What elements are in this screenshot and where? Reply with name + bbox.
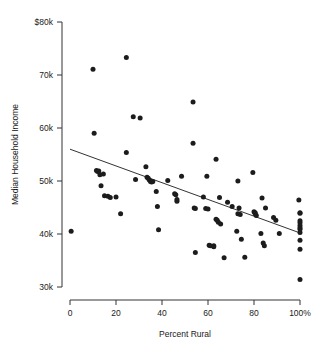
- data-point: [239, 237, 244, 242]
- x-tick-label: 20: [111, 308, 121, 318]
- y-tick-label: 50k: [39, 176, 53, 186]
- scatter-chart-figure: 30k40k50k60k70k$80k020406080100%Percent …: [0, 0, 318, 356]
- data-point: [99, 183, 104, 188]
- x-tick-label: 80: [249, 308, 259, 318]
- data-point: [230, 204, 235, 209]
- y-axis-title: Median Household Income: [10, 104, 20, 205]
- data-point: [206, 207, 211, 212]
- data-point: [124, 55, 129, 60]
- y-tick-label: $80k: [35, 17, 54, 27]
- data-point: [204, 174, 209, 179]
- data-point: [91, 67, 96, 72]
- data-point: [222, 255, 227, 260]
- data-point: [138, 115, 143, 120]
- data-point: [298, 238, 303, 243]
- data-point: [277, 231, 282, 236]
- data-points-layer: [69, 55, 303, 282]
- data-point: [108, 195, 113, 200]
- data-point: [92, 131, 97, 136]
- data-point: [242, 255, 247, 260]
- data-point: [191, 141, 196, 146]
- x-tick-label: 0: [68, 308, 73, 318]
- data-point: [69, 229, 74, 234]
- data-point: [254, 213, 259, 218]
- data-point: [262, 243, 267, 248]
- data-point: [165, 178, 170, 183]
- trendline-layer: [70, 149, 300, 233]
- data-point: [258, 231, 263, 236]
- x-tick-label: 100%: [289, 308, 311, 318]
- data-point: [217, 195, 222, 200]
- data-point: [214, 157, 219, 162]
- data-point: [225, 200, 230, 205]
- data-point: [235, 179, 240, 184]
- data-point: [238, 212, 243, 217]
- data-point: [234, 229, 239, 234]
- y-tick-label: 30k: [39, 282, 53, 292]
- data-point: [133, 177, 138, 182]
- y-tick-label: 60k: [39, 123, 53, 133]
- data-point: [131, 114, 136, 119]
- data-point: [193, 206, 198, 211]
- data-point: [211, 244, 216, 249]
- axis-labels-layer: 30k40k50k60k70k$80k020406080100%Percent …: [10, 17, 311, 339]
- regression-trendline: [70, 149, 300, 233]
- data-point: [101, 172, 106, 177]
- data-point: [298, 211, 303, 216]
- x-tick-label: 60: [203, 308, 213, 318]
- data-point: [150, 179, 155, 184]
- data-point: [273, 218, 278, 223]
- data-point: [155, 204, 160, 209]
- data-point: [298, 247, 303, 252]
- x-tick-label: 40: [157, 308, 167, 318]
- y-tick-label: 40k: [39, 229, 53, 239]
- y-tick-label: 70k: [39, 70, 53, 80]
- data-point: [124, 150, 129, 155]
- data-point: [179, 174, 184, 179]
- axes-layer: [57, 22, 300, 305]
- data-point: [263, 206, 268, 211]
- data-point: [174, 199, 179, 204]
- data-point: [191, 100, 196, 105]
- data-point: [118, 211, 123, 216]
- x-axis-title: Percent Rural: [159, 329, 211, 339]
- data-point: [237, 206, 242, 211]
- data-point: [156, 227, 161, 232]
- data-point: [250, 170, 255, 175]
- chart-canvas: 30k40k50k60k70k$80k020406080100%Percent …: [0, 0, 318, 356]
- data-point: [298, 277, 303, 282]
- data-point: [154, 189, 159, 194]
- data-point: [260, 195, 265, 200]
- data-point: [298, 230, 303, 235]
- data-point: [201, 194, 206, 199]
- data-point: [143, 164, 148, 169]
- data-point: [173, 192, 178, 197]
- data-point: [114, 194, 119, 199]
- data-point: [193, 250, 198, 255]
- data-point: [296, 198, 301, 203]
- data-point: [218, 221, 223, 226]
